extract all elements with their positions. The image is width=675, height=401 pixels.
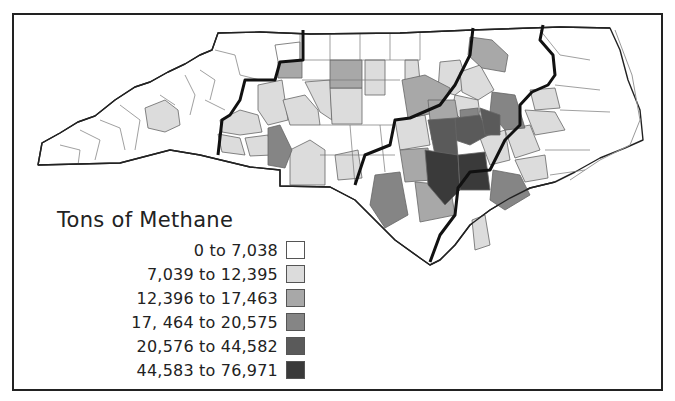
legend-label: 7,039 to 12,395 [147, 265, 278, 284]
legend-item: 7,039 to 12,395 [55, 262, 305, 286]
legend-item: 17, 464 to 20,575 [55, 310, 305, 334]
legend-swatch [286, 289, 305, 307]
legend-label: 44,583 to 76,971 [137, 361, 278, 380]
legend-swatch [286, 265, 305, 283]
legend-label: 0 to 7,038 [194, 241, 278, 260]
legend-title: Tons of Methane [57, 208, 305, 232]
legend-item: 12,396 to 17,463 [55, 286, 305, 310]
legend: Tons of Methane 0 to 7,038 7,039 to 12,3… [55, 208, 305, 382]
legend-swatch [286, 337, 305, 355]
legend-label: 17, 464 to 20,575 [131, 313, 278, 332]
legend-item: 0 to 7,038 [55, 238, 305, 262]
legend-label: 12,396 to 17,463 [137, 289, 278, 308]
legend-swatch [286, 313, 305, 331]
legend-label: 20,576 to 44,582 [137, 337, 278, 356]
legend-item: 20,576 to 44,582 [55, 334, 305, 358]
legend-item: 44,583 to 76,971 [55, 358, 305, 382]
legend-swatch [286, 361, 305, 379]
legend-swatch [286, 241, 305, 259]
